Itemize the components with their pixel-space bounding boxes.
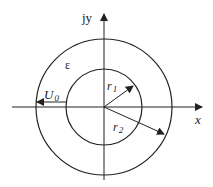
x-axis-label: x [194,112,201,127]
voltage-label: U0 [44,87,59,103]
permittivity-label: ε [65,58,70,72]
radius-r2-label: r2 [113,120,124,135]
coaxial-diagram: jy x ε U0 r1 r2 [0,0,213,187]
radius-r1-label: r1 [107,79,117,94]
y-axis-label: jy [81,10,93,25]
